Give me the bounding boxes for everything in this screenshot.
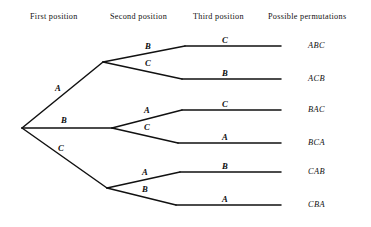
branch-A-C xyxy=(103,62,182,79)
branch-label-third-4: A xyxy=(222,132,228,142)
branch-label-B: B xyxy=(61,115,67,125)
branch-root-C xyxy=(22,128,107,188)
branch-label-B-C: C xyxy=(144,122,150,132)
permutation-result-2: ACB xyxy=(308,74,325,83)
branch-label-C: C xyxy=(58,143,64,153)
branch-label-third-1: C xyxy=(222,35,228,45)
branch-label-A: A xyxy=(55,83,61,93)
permutation-result-1: ABC xyxy=(308,41,325,50)
branch-label-third-5: B xyxy=(222,161,228,171)
branch-label-third-3: C xyxy=(222,99,228,109)
branch-label-B-A: A xyxy=(144,105,150,115)
branch-label-A-B: B xyxy=(145,41,151,51)
tree-diagram-canvas: First position Second position Third pos… xyxy=(0,0,371,227)
permutation-result-3: BAC xyxy=(308,105,325,114)
branch-label-C-B: B xyxy=(142,184,148,194)
permutation-result-5: CAB xyxy=(308,167,325,176)
permutation-result-6: CBA xyxy=(308,200,325,209)
branch-label-A-C: C xyxy=(145,58,151,68)
branch-A-B xyxy=(103,46,185,62)
branch-label-C-A: A xyxy=(142,167,148,177)
branch-label-third-6: A xyxy=(222,194,228,204)
permutation-result-4: BCA xyxy=(308,138,325,147)
branch-label-third-2: B xyxy=(222,68,228,78)
